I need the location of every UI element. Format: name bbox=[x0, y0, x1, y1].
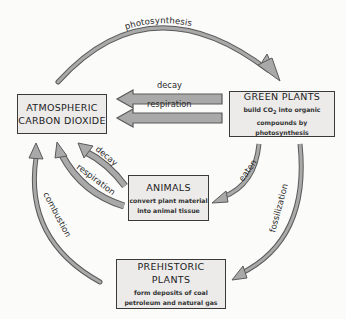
plants-respiration-label: respiration bbox=[147, 99, 192, 109]
atmospheric-title-line1: ATMOSPHERIC bbox=[26, 101, 97, 114]
green-plants-title: GREEN PLANTS bbox=[244, 90, 320, 103]
green-plants-desc-line2: compounds by photosynthesis bbox=[230, 118, 334, 138]
photosynthesis-arrow bbox=[58, 28, 280, 82]
eaten-arrow bbox=[212, 144, 259, 203]
prehistoric-plants-title: PREHISTORIC PLANTS bbox=[117, 260, 225, 286]
plants-decay-label: decay bbox=[157, 80, 182, 90]
green-plants-node: GREEN PLANTS build CO2 into organic comp… bbox=[229, 91, 335, 137]
atmospheric-carbon-dioxide-node: ATMOSPHERIC CARBON DIOXIDE bbox=[17, 94, 107, 134]
plants-respiration-arrow bbox=[117, 109, 222, 127]
fossilization-arrow bbox=[232, 144, 301, 280]
fossilization-label: fossilization bbox=[267, 183, 290, 234]
prehistoric-plants-node: PREHISTORIC PLANTS form deposits of coal… bbox=[116, 259, 226, 309]
animals-desc-line1: convert plant material bbox=[129, 196, 207, 206]
animals-node: ANIMALS convert plant material into anim… bbox=[128, 175, 209, 221]
atmospheric-title-line2: CARBON DIOXIDE bbox=[18, 114, 106, 127]
animals-title: ANIMALS bbox=[146, 181, 191, 194]
carbon-cycle-diagram: photosynthesis bbox=[0, 0, 346, 319]
animals-desc-line2: into animal tissue bbox=[137, 206, 200, 216]
prehistoric-desc-line2: petroleum and natural gas bbox=[124, 298, 217, 308]
green-plants-desc-line1: build CO2 into organic bbox=[243, 105, 320, 117]
prehistoric-desc-line1: form deposits of coal bbox=[134, 288, 208, 298]
